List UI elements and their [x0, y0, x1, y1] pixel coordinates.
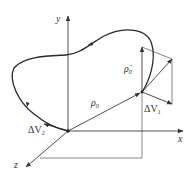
- delta-v2-label: ΔV2: [28, 124, 45, 136]
- origin-point: [66, 129, 70, 133]
- trajectory-curve: [12, 30, 153, 131]
- trajectory-direction-arrow: [88, 42, 93, 46]
- trajectory-diagram: y x z ρ0 ρ̇0 ΔV1 ΔV2: [0, 0, 193, 183]
- rho0-vector: [68, 93, 140, 131]
- y-axis-label: y: [55, 13, 61, 24]
- z-axis-label: z: [13, 159, 18, 170]
- trajectory-direction-arrow: [26, 102, 30, 107]
- burn-point: [141, 91, 144, 94]
- parallelogram-top: [142, 47, 172, 59]
- delta-v1-label: ΔV1: [144, 103, 161, 115]
- x-axis-label: x: [177, 133, 183, 144]
- rho0-label: ρ0: [90, 97, 99, 109]
- z-axis: [26, 131, 68, 167]
- rho-dot-label: ρ̇0: [123, 63, 132, 75]
- resultant-velocity-vector: [142, 59, 172, 92]
